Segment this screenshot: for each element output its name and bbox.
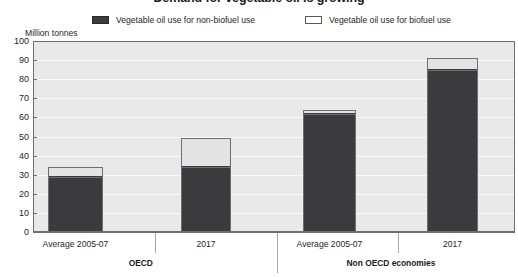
y-axis-tick-label: 80 (1, 75, 29, 84)
legend-label-biofuel: Vegetable oil use for biofuel use (329, 15, 451, 25)
x-axis-group-label: OECD (129, 258, 153, 268)
bar-segment-divider (182, 167, 230, 168)
bar-segment-divider (304, 114, 355, 115)
y-axis-tick-mark (33, 137, 37, 138)
y-axis-tick-label: 30 (1, 170, 29, 179)
y-axis-tick-label: 60 (1, 113, 29, 122)
y-axis-tick-labels: 1009080706050403020100 (0, 0, 29, 277)
y-axis-tick-label: 20 (1, 189, 29, 198)
legend-swatch-biofuel-icon (305, 16, 322, 24)
y-axis-tick-label: 40 (1, 151, 29, 160)
chart-figure: Demand for vegetable oil is growing Vege… (0, 0, 518, 277)
y-axis-tick-mark (33, 79, 37, 80)
y-axis-tick-mark (33, 175, 37, 176)
bar-3 (303, 110, 356, 232)
bar-segment-non-biofuel (182, 166, 230, 231)
y-axis-tick-mark (33, 213, 37, 214)
bar-4 (427, 58, 478, 232)
legend-item-non-biofuel: Vegetable oil use for non-biofuel use (92, 13, 255, 27)
axis-separator (398, 233, 399, 253)
y-axis-tick-label: 90 (1, 56, 29, 65)
x-axis-category-label: 2017 (443, 239, 462, 249)
x-axis-group-label: Non OECD economies (347, 258, 436, 268)
y-axis-tick-mark (33, 60, 37, 61)
legend-item-biofuel: Vegetable oil use for biofuel use (305, 13, 451, 27)
bar-segment-biofuel (182, 139, 230, 168)
y-axis-tick-mark (33, 156, 37, 157)
chart-title: Demand for vegetable oil is growing (0, 0, 518, 5)
y-axis-tick-label: 100 (1, 37, 29, 46)
y-axis-tick-mark (33, 117, 37, 118)
bar-segment-non-biofuel (428, 69, 477, 231)
legend-swatch-non-biofuel-icon (92, 16, 109, 24)
bar-segment-divider (428, 70, 477, 71)
x-axis-line (33, 232, 515, 233)
y-axis-tick-label: 70 (1, 94, 29, 103)
legend-label-non-biofuel: Vegetable oil use for non-biofuel use (116, 15, 255, 25)
x-axis-category-label: Average 2005-07 (297, 239, 363, 249)
y-axis-unit-label: Million tonnes (25, 28, 78, 38)
y-axis-tick-label: 10 (1, 208, 29, 217)
chart-legend: Vegetable oil use for non-biofuel use Ve… (0, 13, 518, 27)
bar-2 (181, 138, 231, 232)
y-axis-tick-mark (33, 98, 37, 99)
x-axis-category-label: 2017 (196, 239, 215, 249)
bar-1 (48, 167, 103, 232)
axis-separator (155, 233, 156, 253)
axis-separator (277, 233, 278, 273)
x-axis-category-label: Average 2005-07 (43, 239, 109, 249)
bar-segment-divider (49, 177, 102, 178)
y-axis-tick-mark (33, 194, 37, 195)
bar-segment-non-biofuel (49, 176, 102, 231)
y-axis-tick-label: 50 (1, 132, 29, 141)
y-axis-tick-label: 0 (1, 228, 29, 237)
bar-segment-non-biofuel (304, 113, 355, 231)
